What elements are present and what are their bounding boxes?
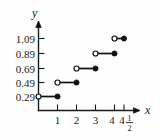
- closed-endpoint-109: [121, 36, 126, 41]
- y-tick-labels: 1.09 0.89 0.69 0.49 0.29: [16, 33, 36, 103]
- x-tick-labels: 1 2 3 4 4 1 2: [55, 114, 133, 133]
- y-tick-label-029: 0.29: [16, 91, 36, 103]
- y-axis-arrow: [36, 21, 41, 28]
- y-tick-label-049: 0.49: [16, 77, 36, 89]
- open-endpoint-049: [55, 80, 60, 85]
- closed-endpoint-069: [93, 66, 98, 71]
- closed-endpoint-029: [55, 94, 60, 99]
- x-tick-label-1: 1: [55, 114, 61, 126]
- axes-group: [36, 21, 140, 113]
- x-axis-label: x: [144, 103, 151, 117]
- y-axis-label: y: [31, 6, 38, 20]
- mixed-number-whole: 4: [119, 114, 125, 126]
- open-endpoint-029: [36, 94, 41, 99]
- closed-endpoint-049: [74, 80, 79, 85]
- x-tick-label-3: 3: [93, 114, 99, 126]
- y-tick-label-089: 0.89: [16, 48, 36, 60]
- x-axis-arrow: [134, 108, 141, 113]
- endpoint-markers-group: [36, 36, 127, 99]
- step-segments-group: [39, 39, 125, 97]
- open-endpoint-109: [112, 36, 117, 41]
- y-tick-label-109: 1.09: [16, 33, 36, 45]
- x-tick-marks: [58, 105, 125, 111]
- y-tick-marks: [39, 39, 45, 97]
- closed-endpoint-089: [112, 51, 117, 56]
- open-endpoint-089: [93, 51, 98, 56]
- chart-plot-area: 1.09 0.89 0.69 0.49 0.29 1 2 3 4 4 1 2 y…: [0, 0, 161, 138]
- mixed-number-denominator: 2: [128, 124, 132, 133]
- y-tick-label-069: 0.69: [16, 63, 36, 75]
- x-tick-label-4-and-half: 4 1 2: [119, 114, 133, 133]
- step-function-chart: 1.09 0.89 0.69 0.49 0.29 1 2 3 4 4 1 2 y…: [0, 0, 161, 138]
- x-tick-label-4: 4: [109, 114, 115, 126]
- open-endpoint-069: [74, 66, 79, 71]
- x-tick-label-2: 2: [74, 114, 80, 126]
- mixed-number-numerator: 1: [128, 114, 132, 123]
